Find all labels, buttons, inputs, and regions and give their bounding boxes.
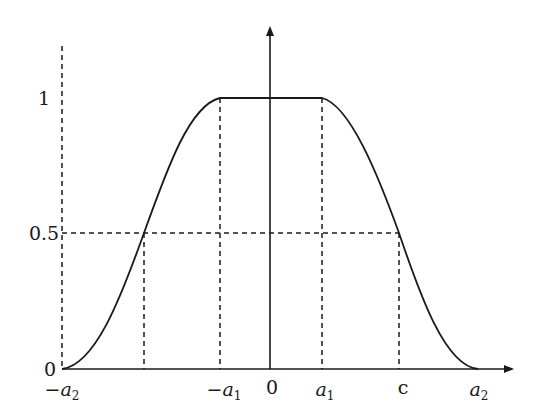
- x-tick-zero: 0: [266, 376, 278, 398]
- x-tick-a2: a2: [470, 378, 489, 403]
- y-tick-1: 1: [38, 87, 50, 109]
- x-tick-neg-a1: −a1: [207, 378, 242, 403]
- x-tick-neg-a2: −a2: [45, 378, 80, 403]
- x-tick-a1: a1: [316, 378, 335, 403]
- y-tick-0-5: 0.5: [29, 222, 59, 244]
- y-tick-0: 0: [44, 358, 56, 380]
- membership-function-diagram: 1 0.5 0 −a2 −a1 0 a1 c a2: [0, 0, 539, 417]
- x-tick-c: c: [398, 376, 409, 398]
